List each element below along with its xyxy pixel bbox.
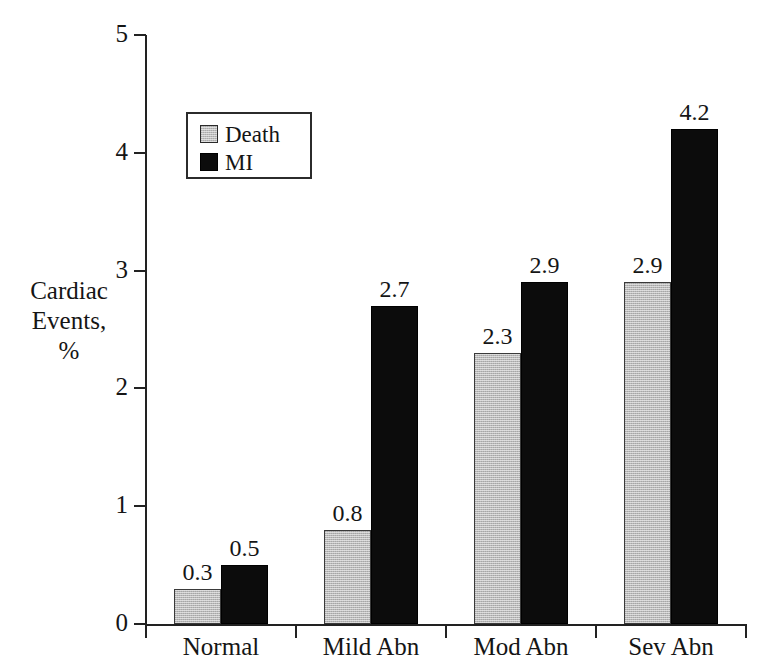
y-axis-title: Cardiac Events, %	[8, 276, 130, 366]
bar-value-label: 0.5	[210, 535, 280, 561]
legend-entry-death: Death	[200, 120, 310, 148]
x-tick-label-normal: Normal	[146, 632, 296, 662]
legend-label-death: Death	[225, 123, 280, 146]
y-tick-mark	[134, 152, 146, 154]
y-tick-label: 1	[88, 492, 128, 517]
x-tick-label-sev-abn: Sev Abn	[596, 632, 746, 662]
y-tick-label: 5	[88, 21, 128, 46]
bar-mi-mod-abn	[521, 282, 568, 624]
y-axis-line	[145, 35, 147, 638]
bar-death-mod-abn	[474, 353, 521, 624]
y-axis-title-line-2: Events,	[8, 306, 130, 336]
bar-death-normal	[174, 589, 221, 624]
x-tick-label-mod-abn: Mod Abn	[446, 632, 596, 662]
chart-legend: Death MI	[186, 112, 312, 179]
bar-mi-mild-abn	[371, 306, 418, 624]
bar-mi-sev-abn	[671, 129, 718, 624]
bar-mi-normal	[221, 565, 268, 624]
bar-value-label: 2.9	[510, 252, 580, 278]
gray-square-icon	[200, 125, 218, 143]
bar-value-label: 4.2	[660, 99, 730, 125]
y-axis-title-line-3: %	[8, 336, 130, 366]
y-tick-mark	[134, 505, 146, 507]
y-tick-mark	[134, 34, 146, 36]
black-square-icon	[200, 153, 218, 171]
y-tick-mark	[134, 387, 146, 389]
bar-death-mild-abn	[324, 530, 371, 624]
y-tick-mark	[134, 270, 146, 272]
legend-label-mi: MI	[225, 151, 253, 174]
y-tick-label: 3	[88, 257, 128, 282]
bar-chart: Cardiac Events, % 012345 NormalMild AbnM…	[0, 0, 782, 667]
y-tick-label: 4	[88, 139, 128, 164]
x-tick-label-mild-abn: Mild Abn	[296, 632, 446, 662]
y-tick-label: 0	[88, 610, 128, 635]
legend-entry-mi: MI	[200, 148, 310, 176]
bar-value-label: 2.7	[360, 276, 430, 302]
y-tick-label: 2	[88, 374, 128, 399]
bar-death-sev-abn	[624, 282, 671, 624]
